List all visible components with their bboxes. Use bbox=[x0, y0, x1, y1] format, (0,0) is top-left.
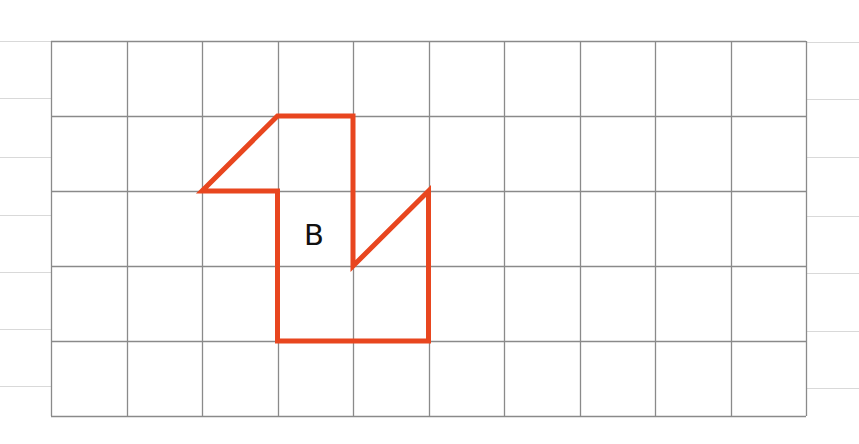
shape-label: B bbox=[304, 218, 324, 252]
grid-figure: B bbox=[0, 0, 859, 444]
grid-diagram: B bbox=[0, 0, 859, 444]
